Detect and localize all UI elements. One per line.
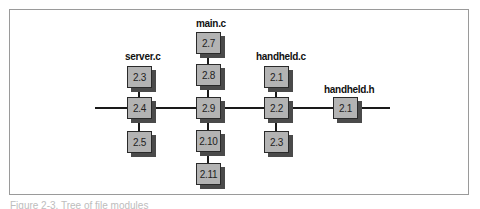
node-main-2-10: 2.10 [196,130,221,152]
group-label-server: server.c [125,51,160,62]
node-server-2-5: 2.5 [127,131,152,153]
node-main-2-7: 2.7 [196,32,221,54]
node-server-2-3: 2.3 [127,66,152,88]
node-main-2-11: 2.11 [196,163,221,185]
node-main-2-8: 2.8 [196,64,221,86]
node-handheld-c-2-1: 2.1 [264,66,289,88]
node-server-2-4: 2.4 [127,97,152,119]
group-label-main: main.c [196,18,226,29]
node-handheld-h-2-1: 2.1 [333,97,358,119]
node-handheld-c-2-2: 2.2 [264,97,289,119]
figure-caption: Figure 2-3. Tree of file modules [10,200,148,209]
diagram-frame [9,9,469,195]
group-label-handheld-c: handheld.c [256,51,306,62]
node-handheld-c-2-3: 2.3 [264,131,289,153]
group-label-handheld-h: handheld.h [324,84,374,95]
node-main-2-9: 2.9 [196,97,221,119]
